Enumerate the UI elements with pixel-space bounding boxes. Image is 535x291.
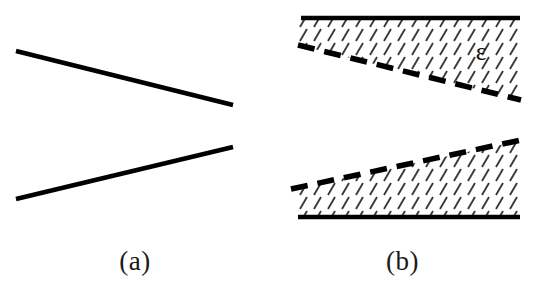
figure-root: (a) xyxy=(0,0,535,291)
panel-a-drawing xyxy=(0,0,270,240)
lower-wall-line xyxy=(16,147,233,199)
panel-b: ε (b) xyxy=(270,0,535,291)
panel-a: (a) xyxy=(0,0,270,291)
panel-b-caption: (b) xyxy=(270,248,535,275)
panel-b-drawing: ε xyxy=(270,0,535,240)
panel-a-caption: (a) xyxy=(0,248,270,275)
epsilon-label: ε xyxy=(476,38,487,65)
upper-wall-line xyxy=(16,51,233,105)
